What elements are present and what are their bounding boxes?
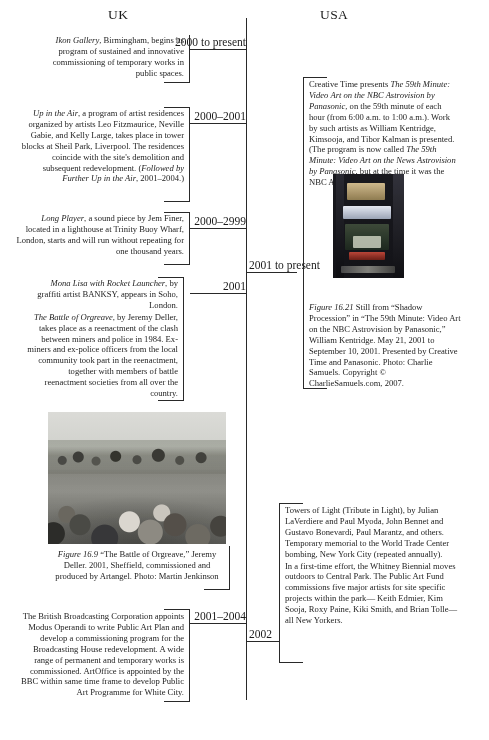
column-header-usa: USA [320, 7, 348, 23]
entry-uk-longplayer: Long Player, a sound piece by Jem Finer,… [16, 213, 184, 257]
column-header-uk: UK [108, 7, 128, 23]
bracket-figure-16-9 [229, 546, 230, 590]
times-square-astrovision-photo [333, 174, 404, 278]
bracket-uk-banksy [183, 277, 184, 401]
tick-2000-2999 [190, 228, 247, 229]
billboard-top [347, 183, 385, 200]
tick-2001-2004 [190, 623, 247, 624]
figure-16-21-caption: Figure 16.21 Still from “Shadow Processi… [309, 302, 461, 389]
entry-usa-creative-time: Creative Time presents The 59th Minute: … [309, 79, 459, 188]
bracket-usa-towers-foot [279, 662, 303, 663]
tick-2000-2001 [190, 123, 247, 124]
figure-16-9-label: Figure 16.9 [58, 549, 98, 559]
bracket-uk-bbc [189, 609, 190, 702]
bracket-figure-16-9-foot [204, 589, 230, 590]
bracket-usa-towers-head [279, 503, 303, 504]
entry-uk-longplayer-text: Long Player, a sound piece by Jem Finer,… [16, 213, 184, 257]
bracket-uk-ikon [189, 35, 190, 83]
marquee-sign [349, 252, 385, 260]
figure-16-21-label: Figure 16.21 [309, 302, 354, 312]
entry-uk-bbc: The British Broadcasting Corporation app… [16, 611, 184, 698]
bracket-uk-bbc-head [164, 609, 190, 610]
street-level-lights [341, 266, 395, 273]
figure-16-9-caption: Figure 16.9 “The Battle of Orgreave,” Je… [48, 549, 226, 582]
bracket-usa-creative-time-head [303, 77, 327, 78]
entry-usa-towers-of-light: Towers of Light (Tribute in Light), by J… [285, 505, 463, 626]
bracket-uk-longplayer-foot [164, 264, 190, 265]
entry-uk-ikon: Ikon Gallery, Birmingham, begins its pro… [30, 35, 184, 79]
entry-uk-upintheair: Up in the Air, a program of artist resid… [18, 108, 184, 184]
timeline-axis [246, 18, 247, 700]
shadow-procession-still [353, 236, 381, 248]
timeline-page: UK USA 2000 to present 2000–2001 2000–29… [0, 0, 489, 740]
entry-uk-bbc-text: The British Broadcasting Corporation app… [16, 611, 184, 698]
entry-uk-banksy-orgreave: Mona Lisa with Rocket Launcher, by graff… [26, 278, 178, 399]
tick-2001-to-present [247, 272, 297, 273]
entry-uk-banksy-text: Mona Lisa with Rocket Launcher, by graff… [26, 278, 178, 311]
figure-16-21-caption-text: Still from “Shadow Procession” in “The 5… [309, 302, 461, 388]
bracket-uk-upintheair [189, 107, 190, 202]
entry-uk-upintheair-text: Up in the Air, a program of artist resid… [18, 108, 184, 184]
building-left-silhouette [336, 174, 344, 278]
entry-uk-ikon-text: Ikon Gallery, Birmingham, begins its pro… [30, 35, 184, 79]
bracket-uk-bbc-foot [164, 701, 190, 702]
billboard-budweiser [343, 206, 391, 219]
tick-2001 [190, 293, 247, 294]
entry-uk-orgreave-text: The Battle of Orgreave, by Jeremy Deller… [26, 312, 178, 399]
entry-usa-whitney-text: In a first-time effort, the Whitney Bien… [285, 561, 463, 626]
entry-usa-creative-time-text: Creative Time presents The 59th Minute: … [309, 79, 459, 188]
figure-16-9-image [48, 412, 226, 544]
bracket-usa-creative-time [303, 77, 304, 389]
bracket-uk-upintheair-foot [164, 201, 190, 202]
battle-of-orgreave-photo [48, 412, 226, 544]
bracket-uk-longplayer [189, 212, 190, 265]
tick-2000-to-present [190, 49, 247, 50]
bracket-usa-towers [279, 503, 280, 663]
tick-2002 [247, 641, 279, 642]
figure-16-21-image [333, 174, 404, 278]
entry-usa-towers-text: Towers of Light (Tribute in Light), by J… [285, 505, 463, 560]
building-right-silhouette [393, 174, 404, 278]
bracket-uk-banksy-foot [158, 400, 184, 401]
bracket-uk-ikon-foot [164, 82, 190, 83]
